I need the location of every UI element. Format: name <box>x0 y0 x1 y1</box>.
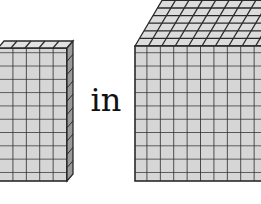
cube-block <box>135 0 261 181</box>
flat-block <box>0 41 73 181</box>
connector-text: in <box>86 80 126 120</box>
base-ten-blocks-diagram <box>0 0 261 204</box>
flat-top-face <box>0 41 73 48</box>
cube-front-face <box>135 46 261 181</box>
flat-front-face <box>0 48 67 181</box>
